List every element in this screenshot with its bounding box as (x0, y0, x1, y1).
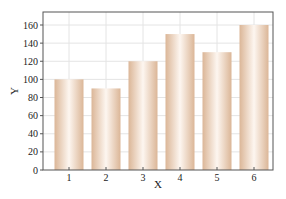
y-tick-label: 20 (28, 146, 38, 157)
y-tick-label: 100 (23, 74, 38, 85)
bar (166, 34, 195, 170)
x-tick-label: 6 (252, 172, 257, 183)
y-axis-ticks: 020406080100120140160 (23, 20, 43, 176)
y-tick-label: 0 (33, 165, 38, 176)
x-axis-label: X (154, 178, 162, 190)
x-tick-label: 4 (178, 172, 183, 183)
y-tick-label: 40 (28, 128, 38, 139)
y-tick-label: 140 (23, 38, 38, 49)
x-tick-label: 1 (67, 172, 72, 183)
bar (55, 79, 84, 170)
y-tick-label: 160 (23, 20, 38, 31)
x-tick-label: 5 (215, 172, 220, 183)
x-tick-label: 2 (104, 172, 109, 183)
x-tick-label: 3 (141, 172, 146, 183)
y-tick-label: 80 (28, 92, 38, 103)
bar (203, 52, 232, 170)
bar-chart: 020406080100120140160 123456 X Y (0, 0, 286, 199)
y-axis-label: Y (8, 87, 20, 95)
bar (92, 88, 121, 170)
y-tick-label: 120 (23, 56, 38, 67)
bar (129, 61, 158, 170)
bar (240, 25, 269, 170)
y-tick-label: 60 (28, 110, 38, 121)
